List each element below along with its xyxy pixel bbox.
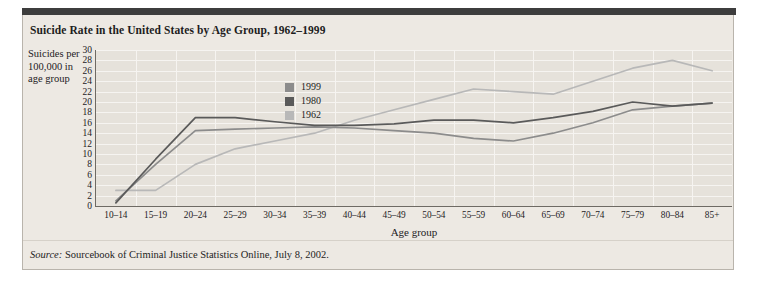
- x-tick-label: 10–14: [104, 210, 127, 220]
- x-tick-label: 15–19: [144, 210, 167, 220]
- y-tick-label: 2: [74, 191, 92, 201]
- y-tick-label: 12: [74, 139, 92, 149]
- y-tick-label: 4: [74, 180, 92, 190]
- y-tick-label: 6: [74, 170, 92, 180]
- legend-label: 1999: [301, 82, 321, 92]
- source-note: Source: Sourcebook of Criminal Justice S…: [30, 249, 329, 260]
- legend-label: 1962: [301, 110, 321, 120]
- chart-title: Suicide Rate in the United States by Age…: [30, 24, 326, 36]
- x-tick-label: 75–79: [621, 210, 644, 220]
- x-tick-label: 40–44: [343, 210, 366, 220]
- x-tick-label: 30–34: [263, 210, 286, 220]
- x-tick-label: 80–84: [661, 210, 684, 220]
- source-label: Source:: [30, 249, 62, 260]
- x-tick-label: 70–74: [581, 210, 604, 220]
- x-tick-label: 25–29: [224, 210, 247, 220]
- legend-item: 1999: [285, 81, 321, 93]
- x-tick-label: 35–39: [303, 210, 326, 220]
- x-axis-title: Age group: [391, 226, 438, 238]
- x-tick-label: 85+: [705, 210, 720, 220]
- y-tick-label: 24: [74, 76, 92, 86]
- y-tick-label: 20: [74, 97, 92, 107]
- legend-item: 1980: [285, 95, 321, 107]
- legend-item: 1962: [285, 109, 321, 121]
- y-tick-label: 26: [74, 66, 92, 76]
- y-tick-label: 8: [74, 159, 92, 169]
- x-tick-label: 45–49: [383, 210, 406, 220]
- y-tick-label: 16: [74, 118, 92, 128]
- legend-swatch-icon: [285, 97, 294, 106]
- figure-top-rule: [22, 8, 736, 15]
- y-tick-label: 0: [74, 201, 92, 211]
- source-divider: [23, 240, 733, 241]
- series-lines: [96, 50, 732, 206]
- y-tick-label: 10: [74, 149, 92, 159]
- x-tick-label: 50–54: [422, 210, 445, 220]
- x-tick-label: 20–24: [184, 210, 207, 220]
- legend-swatch-icon: [285, 83, 294, 92]
- y-tick-label: 18: [74, 107, 92, 117]
- y-tick-label: 14: [74, 128, 92, 138]
- chart-legend: 199919801962: [285, 81, 321, 123]
- x-tick-label: 65–69: [542, 210, 565, 220]
- x-axis-line: [95, 206, 732, 207]
- x-tick-label: 60–64: [502, 210, 525, 220]
- y-tick-label: 30: [74, 45, 92, 55]
- plot-area: 024681012141618202224262830 10–1415–1920…: [96, 50, 732, 206]
- chart-figure: Suicide Rate in the United States by Age…: [0, 0, 758, 288]
- series-line-1980: [116, 102, 712, 203]
- legend-label: 1980: [301, 96, 321, 106]
- source-text: Sourcebook of Criminal Justice Statistic…: [62, 249, 329, 260]
- x-tick-label: 55–59: [462, 210, 485, 220]
- legend-swatch-icon: [285, 111, 294, 120]
- y-tick-label: 22: [74, 87, 92, 97]
- series-line-1962: [116, 60, 712, 190]
- y-tick-label: 28: [74, 55, 92, 65]
